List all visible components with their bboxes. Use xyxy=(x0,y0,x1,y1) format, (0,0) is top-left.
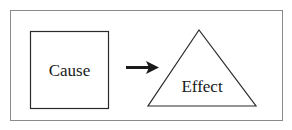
effect-node: Effect xyxy=(148,30,256,106)
arrow-connector xyxy=(126,61,159,74)
cause-node: Cause xyxy=(31,32,109,109)
effect-label: Effect xyxy=(181,77,222,96)
cause-label: Cause xyxy=(49,61,91,80)
cause-effect-diagram: Cause Effect xyxy=(0,0,292,130)
